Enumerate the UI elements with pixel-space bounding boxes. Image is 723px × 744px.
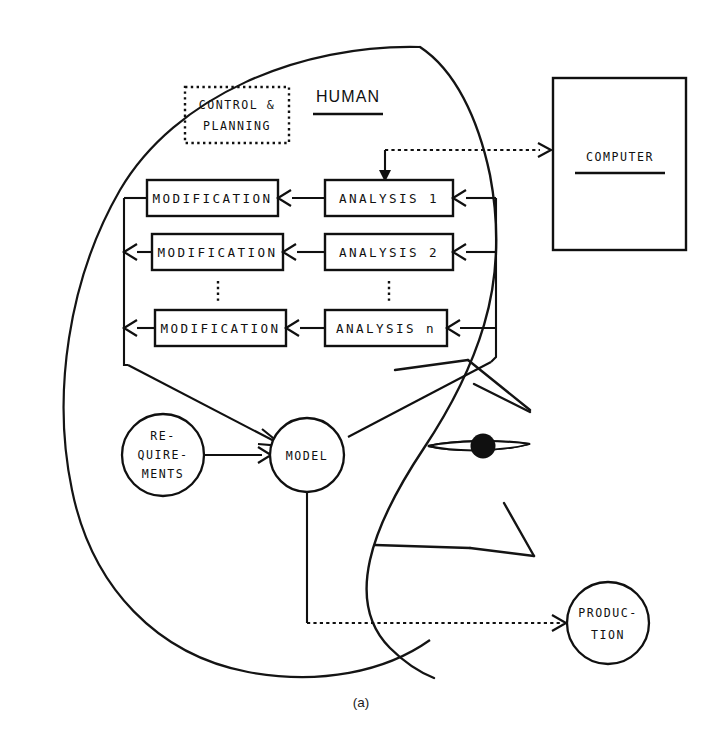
- human-label: HUMAN: [316, 88, 380, 105]
- arrow-bus-to-analysisn: [447, 320, 496, 336]
- computer-feed-into-analysis1: [379, 150, 391, 182]
- production-line-1: PRODUC-: [578, 606, 637, 620]
- computer-box: [553, 78, 686, 250]
- analysis-label-2: ANALYSIS 2: [339, 245, 439, 260]
- analysis-node-2[interactable]: ANALYSIS 2: [325, 234, 453, 270]
- control-planning-box: [185, 87, 289, 143]
- model-label: MODEL: [286, 449, 328, 463]
- arrow-bus-to-analysis1: [453, 190, 496, 206]
- analysis-to-computer-link: [385, 143, 551, 157]
- arrow-analysis2-to-modification2: [283, 244, 325, 260]
- row-ellipsis-indicators: [218, 281, 389, 303]
- modification-label-2: MODIFICATION: [158, 245, 278, 260]
- analysis-node-3[interactable]: ANALYSIS n: [325, 310, 447, 346]
- arrow-requirements-to-model: [204, 447, 271, 463]
- computer-node[interactable]: COMPUTER: [553, 78, 686, 250]
- figure-container: HUMAN CONTROL & PLANNING COMPUTER: [0, 0, 723, 744]
- row-3: MODIFICATION ANALYSIS n: [124, 310, 496, 346]
- model-to-production-link: [307, 492, 566, 631]
- human-label-group: HUMAN: [313, 88, 383, 114]
- row-1: MODIFICATION ANALYSIS 1: [124, 180, 496, 216]
- modification-node-1[interactable]: MODIFICATION: [147, 180, 278, 216]
- production-circle: [567, 582, 649, 664]
- figure-caption: (a): [353, 695, 370, 710]
- computer-label: COMPUTER: [586, 150, 654, 164]
- requirements-node[interactable]: RE- QUIRE- MENTS: [122, 414, 204, 496]
- control-planning-line-1: CONTROL &: [199, 98, 275, 112]
- control-planning-line-2: PLANNING: [203, 119, 271, 133]
- analysis-label-3: ANALYSIS n: [336, 321, 436, 336]
- control-planning-node[interactable]: CONTROL & PLANNING: [185, 87, 289, 143]
- production-node[interactable]: PRODUC- TION: [567, 582, 649, 664]
- arrow-bus-to-analysis2: [453, 244, 496, 260]
- modification-label-1: MODIFICATION: [153, 191, 273, 206]
- modification-node-3[interactable]: MODIFICATION: [155, 310, 286, 346]
- requirements-line-1: RE-: [150, 429, 175, 443]
- analysis-label-1: ANALYSIS 1: [339, 191, 439, 206]
- arrow-analysis1-to-modification1: [278, 190, 325, 206]
- model-node[interactable]: MODEL: [270, 418, 344, 492]
- modification-node-2[interactable]: MODIFICATION: [152, 234, 283, 270]
- face-profile-lines: [367, 47, 534, 678]
- pupil-icon: [471, 434, 496, 459]
- human-boundary-outline: [64, 47, 430, 677]
- human-computer-design-loop-diagram: HUMAN CONTROL & PLANNING COMPUTER: [0, 0, 723, 744]
- eye: [428, 434, 530, 459]
- modification-label-3: MODIFICATION: [161, 321, 281, 336]
- requirements-line-2: QUIRE-: [138, 448, 189, 462]
- arrow-modification2-to-bus: [124, 244, 152, 260]
- analysis-node-1[interactable]: ANALYSIS 1: [325, 180, 453, 216]
- production-line-2: TION: [591, 628, 625, 642]
- arrow-analysisn-to-modificationn: [286, 320, 325, 336]
- row-2: MODIFICATION ANALYSIS 2: [124, 234, 496, 270]
- arrow-modificationn-to-bus: [124, 320, 155, 336]
- requirements-line-3: MENTS: [142, 467, 184, 481]
